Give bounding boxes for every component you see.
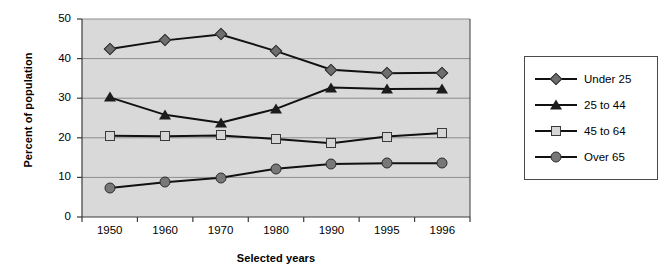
- chart-container: Percent of population Selected years 010…: [0, 0, 667, 278]
- legend-marker: [551, 152, 562, 163]
- data-point-marker: [104, 92, 116, 102]
- data-point-marker: [160, 177, 171, 188]
- data-point-marker: [271, 163, 282, 174]
- legend-item-25-to-44[interactable]: 25 to 44: [535, 94, 651, 116]
- legend-diamond-icon: [535, 71, 577, 87]
- legend-item-under-25[interactable]: Under 25: [535, 68, 651, 90]
- data-point-marker: [326, 158, 337, 169]
- data-point-marker: [382, 132, 392, 142]
- legend-circle-icon: [535, 149, 577, 165]
- y-tick-label: 0: [45, 210, 71, 222]
- y-tick-label: 20: [45, 131, 71, 143]
- legend-square-icon: [535, 123, 577, 139]
- data-point-marker: [325, 82, 337, 92]
- data-point-marker: [215, 172, 226, 183]
- x-tick-label: 1990: [308, 224, 354, 236]
- y-tick-label: 50: [45, 12, 71, 24]
- y-tick-label: 30: [45, 91, 71, 103]
- data-point-marker: [270, 103, 282, 113]
- y-tick-label: 40: [45, 52, 71, 64]
- data-point-marker: [437, 158, 448, 169]
- data-point-marker: [437, 128, 447, 138]
- x-tick-label: 1960: [142, 224, 188, 236]
- legend-marker: [550, 100, 562, 110]
- chart-legend: Under 2525 to 4445 to 64Over 65: [524, 56, 658, 180]
- legend-marker: [551, 126, 561, 136]
- data-point-marker: [104, 183, 115, 194]
- data-point-marker: [215, 117, 227, 127]
- x-tick-label: 1970: [198, 224, 244, 236]
- y-tick-label: 10: [45, 170, 71, 182]
- x-tick-label: 1996: [419, 224, 465, 236]
- legend-label: 45 to 64: [584, 125, 626, 137]
- data-point-marker: [381, 84, 393, 94]
- legend-label: 25 to 44: [584, 99, 626, 111]
- x-tick-label: 1980: [253, 224, 299, 236]
- data-point-marker: [436, 83, 448, 93]
- x-tick-label: 1995: [364, 224, 410, 236]
- data-point-marker: [271, 134, 281, 144]
- x-tick-label: 1950: [87, 224, 133, 236]
- data-point-marker: [216, 130, 226, 140]
- legend-label: Over 65: [584, 151, 625, 163]
- legend-item-over-65[interactable]: Over 65: [535, 146, 651, 168]
- legend-triangle-icon: [535, 97, 577, 113]
- legend-label: Under 25: [584, 73, 631, 85]
- data-point-marker: [326, 138, 336, 148]
- legend-item-45-to-64[interactable]: 45 to 64: [535, 120, 651, 142]
- data-point-marker: [159, 109, 171, 119]
- data-point-marker: [160, 131, 170, 141]
- data-point-marker: [105, 131, 115, 141]
- legend-marker: [550, 73, 563, 86]
- data-point-marker: [381, 158, 392, 169]
